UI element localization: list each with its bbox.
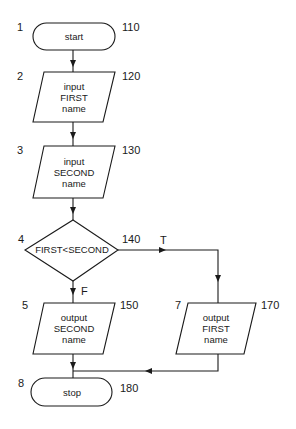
step-number-1: 1 bbox=[17, 22, 23, 33]
input-second-line-2: SECOND bbox=[54, 167, 95, 178]
output-first-text: output FIRST name bbox=[202, 312, 229, 345]
line-number-150: 150 bbox=[120, 300, 138, 311]
input-first-line-1: input bbox=[60, 81, 87, 92]
output-first-line-2: FIRST bbox=[202, 323, 229, 334]
input-second-text: input SECOND name bbox=[54, 156, 95, 189]
merge-line bbox=[73, 354, 218, 371]
flowchart-canvas bbox=[0, 0, 296, 429]
step-number-4: 4 bbox=[18, 234, 24, 245]
input-first-line-2: FIRST bbox=[60, 92, 87, 103]
output-first-line-3: name bbox=[202, 334, 229, 345]
output-second-line-1: output bbox=[54, 312, 95, 323]
output-second-line-2: SECOND bbox=[54, 323, 95, 334]
input-first-line-3: name bbox=[60, 103, 87, 114]
false-branch-label: F bbox=[81, 286, 88, 297]
step-number-8: 8 bbox=[18, 378, 24, 389]
decision-label: FIRST<SECOND bbox=[35, 244, 109, 255]
line-number-140: 140 bbox=[122, 234, 140, 245]
true-branch-label: T bbox=[160, 235, 167, 246]
stop-label: stop bbox=[63, 387, 81, 398]
start-label: start bbox=[65, 31, 83, 42]
step-number-7: 7 bbox=[175, 300, 181, 311]
line-number-170: 170 bbox=[261, 300, 279, 311]
step-number-2: 2 bbox=[17, 71, 23, 82]
output-second-text: output SECOND name bbox=[54, 312, 95, 345]
step-number-3: 3 bbox=[17, 145, 23, 156]
input-first-text: input FIRST name bbox=[60, 81, 87, 114]
input-second-line-1: input bbox=[54, 156, 95, 167]
line-number-180: 180 bbox=[120, 383, 138, 394]
output-first-line-1: output bbox=[202, 312, 229, 323]
input-second-line-3: name bbox=[54, 178, 95, 189]
line-number-110: 110 bbox=[122, 22, 140, 33]
true-branch-line bbox=[118, 250, 218, 303]
line-number-120: 120 bbox=[122, 71, 140, 82]
output-second-line-3: name bbox=[54, 334, 95, 345]
line-number-130: 130 bbox=[122, 145, 140, 156]
step-number-5: 5 bbox=[22, 300, 28, 311]
